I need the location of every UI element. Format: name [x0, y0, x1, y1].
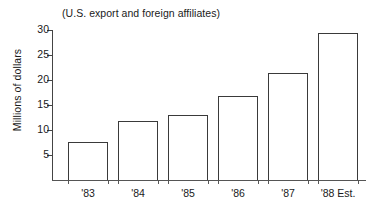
x-tick-label: '84 — [131, 187, 145, 200]
bar — [118, 121, 158, 180]
x-tick-mark — [318, 180, 319, 184]
x-tick-mark — [168, 180, 169, 184]
y-tick-label: 15 — [37, 98, 49, 111]
x-tick-label: '88 Est. — [321, 187, 356, 200]
y-tick-label: 10 — [37, 123, 49, 136]
plot-area: 51015202530 '83'84'85'86'87'88 Est. — [52, 30, 360, 180]
x-tick-mark — [268, 180, 269, 184]
bar — [268, 73, 308, 181]
x-tick-mark — [68, 180, 69, 184]
y-tick-label: 25 — [37, 48, 49, 61]
bar — [318, 33, 358, 181]
bar — [168, 115, 208, 180]
y-axis-title-text: Millions of dollars — [11, 49, 23, 131]
x-tick-label: '86 — [231, 187, 245, 200]
x-tick-mark — [258, 180, 259, 184]
y-tick-label: 20 — [37, 73, 49, 86]
x-tick-label: '85 — [181, 187, 195, 200]
y-tick-label: 5 — [43, 148, 49, 161]
bar — [218, 96, 258, 180]
y-axis-title: Millions of dollars — [8, 0, 26, 180]
bar — [68, 142, 108, 180]
y-tick-label: 30 — [37, 23, 49, 36]
x-tick-mark — [308, 180, 309, 184]
y-axis-line — [52, 30, 53, 180]
x-tick-mark — [158, 180, 159, 184]
x-tick-label: '87 — [281, 187, 295, 200]
x-tick-mark — [208, 180, 209, 184]
x-tick-mark — [118, 180, 119, 184]
bar-chart: (U.S. export and foreign affiliates) Mil… — [0, 0, 375, 208]
x-tick-mark — [108, 180, 109, 184]
chart-title: (U.S. export and foreign affiliates) — [62, 7, 220, 19]
x-tick-mark — [218, 180, 219, 184]
x-tick-mark — [358, 180, 359, 184]
x-tick-label: '83 — [81, 187, 95, 200]
